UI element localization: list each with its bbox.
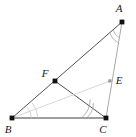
point-B-marker [10,116,15,121]
geometry-canvas: A B C F E [0,0,136,137]
segment-CF [55,81,106,118]
point-label-B: B [5,123,12,135]
point-label-C: C [99,123,107,135]
segment-BE [12,81,110,118]
point-label-F: F [41,67,49,79]
point-label-A: A [115,2,123,14]
angle-mark-C [82,99,94,118]
segment-AC [106,22,122,118]
geometry-figure: A B C F E [0,0,136,137]
segment-group [12,22,122,118]
point-label-E: E [115,74,123,86]
segment-AB [12,22,122,118]
point-E-marker [108,79,111,82]
point-A-marker [120,20,125,25]
point-F-marker [53,79,58,84]
point-C-marker [104,116,109,121]
label-group: A B C F E [5,2,123,135]
